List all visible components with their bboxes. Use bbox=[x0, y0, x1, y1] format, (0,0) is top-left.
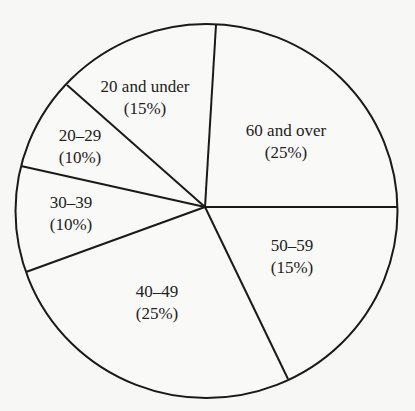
slice-percent: (15%) bbox=[271, 258, 313, 277]
slice-percent: (15%) bbox=[124, 99, 166, 118]
slice-percent: (10%) bbox=[59, 148, 101, 167]
slice-percent: (10%) bbox=[50, 215, 92, 234]
slice-label: 30–39 bbox=[50, 193, 93, 212]
slice-label: 50–59 bbox=[271, 236, 314, 255]
slice-label: 40–49 bbox=[136, 282, 179, 301]
slice-label: 20 and under bbox=[101, 77, 190, 96]
pie-chart: 60 and over (25%) 50–59 (15%) 40–49 (25%… bbox=[0, 0, 415, 411]
slice-label: 60 and over bbox=[246, 121, 327, 140]
slice-percent: (25%) bbox=[136, 304, 178, 323]
slice-label: 20–29 bbox=[59, 126, 102, 145]
slice-percent: (25%) bbox=[265, 143, 307, 162]
